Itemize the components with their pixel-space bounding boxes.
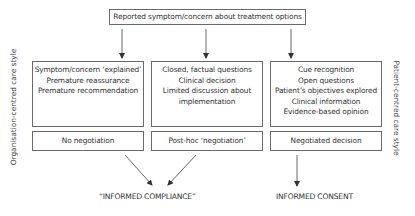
decision-label: Negotiated decision (291, 136, 362, 145)
patient-centred-label: Patient-centred care style (392, 60, 401, 155)
informed-consent-label: INFORMED CONSENT (276, 192, 353, 201)
process-line: implementation (152, 97, 262, 108)
process-line: Open questions (271, 76, 381, 87)
arrow-col2-to-compliance (168, 155, 196, 185)
decision-label: No negotiation (62, 136, 114, 145)
column-1-process-box: Symptom/concern ‘explained’ Premature re… (32, 61, 144, 127)
organisation-centred-label: Organisation-centred care style (9, 49, 18, 166)
process-line: Premature reassurance (33, 76, 143, 87)
process-line: Evidence-based opinion (271, 107, 381, 118)
column-3-process-box: Cue recognition Open questions Patient’s… (270, 61, 382, 127)
top-concern-box: Reported symptom/concern about treatment… (109, 9, 306, 25)
process-line: Limited discussion about (152, 86, 262, 97)
informed-compliance-label: “INFORMED COMPLIANCE” (99, 192, 196, 201)
column-2-process-box: Closed, factual questions Clinical decis… (151, 61, 263, 127)
column-2-decision-box: Post-hoc ‘negotiation’ (151, 131, 263, 151)
column-3-decision-box: Negotiated decision (270, 131, 382, 151)
process-line: Clinical decision (152, 76, 262, 87)
process-line: Cue recognition (271, 65, 381, 76)
arrow-col1-to-compliance (125, 155, 152, 185)
decision-label: Post-hoc ‘negotiation’ (168, 136, 245, 145)
process-line: Patient’s objectives explored (271, 86, 381, 97)
top-concern-label: Reported symptom/concern about treatment… (113, 12, 301, 21)
process-line: Symptom/concern ‘explained’ (33, 65, 143, 76)
process-line: Clinical information (271, 97, 381, 108)
column-1-decision-box: No negotiation (32, 131, 144, 151)
process-line: Closed, factual questions (152, 65, 262, 76)
process-line: Premature recommendation (33, 86, 143, 97)
